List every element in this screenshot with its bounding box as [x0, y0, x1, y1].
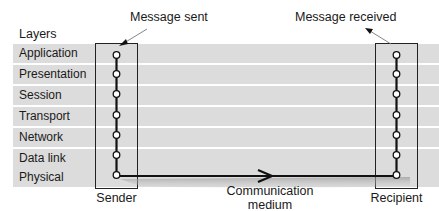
- sender-label: Sender: [95, 191, 138, 205]
- message-received-label: Message received: [295, 10, 396, 24]
- recipient-label: Recipient: [365, 191, 428, 205]
- message-sent-label: Message sent: [130, 10, 208, 24]
- message-sent-arrow-icon: [119, 39, 128, 46]
- message-sent-pointer: [124, 29, 147, 43]
- message-received-pointer: [370, 31, 391, 44]
- message-received-arrow-icon: [365, 28, 373, 34]
- medium-label-line2: medium: [210, 198, 330, 211]
- diagram-graphics: [0, 0, 439, 211]
- medium-label-line1: Communication: [210, 184, 330, 198]
